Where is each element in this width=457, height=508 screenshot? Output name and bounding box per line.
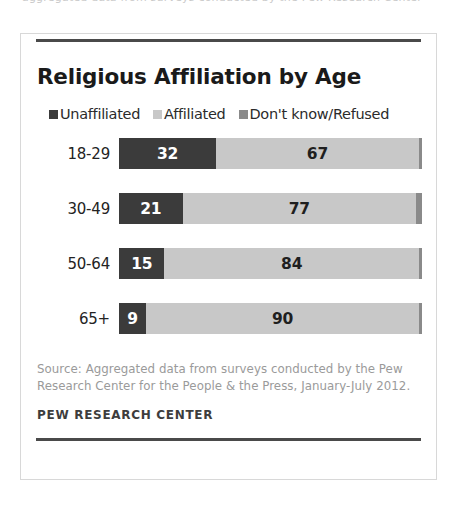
bar-segment-aff: 84: [164, 248, 419, 279]
bottom-rule-divider: [36, 438, 421, 441]
bar-category-label: 65+: [35, 310, 119, 328]
bar-segment-aff: 77: [183, 193, 416, 224]
bar-segment-dk: [419, 138, 422, 169]
bar-segment-aff: 67: [216, 138, 419, 169]
legend-swatch-unaffiliated: [49, 110, 58, 119]
bar-segment-unaff: 32: [119, 138, 216, 169]
bar-row: 65+990: [35, 303, 422, 334]
stacked-bar: 3267: [119, 138, 422, 169]
bar-segment-value: 32: [157, 145, 178, 163]
source-note: Source: Aggregated data from surveys con…: [37, 361, 422, 395]
chart-card: Religious Affiliation by Age Unaffiliate…: [20, 33, 437, 480]
bar-row: 18-293267: [35, 138, 422, 169]
bar-segment-value: 90: [272, 310, 293, 328]
stacked-bar: 990: [119, 303, 422, 334]
bar-segment-unaff: 21: [119, 193, 183, 224]
bar-segment-value: 84: [281, 255, 302, 273]
bar-segment-value: 15: [131, 255, 152, 273]
stacked-bar: 2177: [119, 193, 422, 224]
bar-segment-dk: [416, 193, 422, 224]
legend-item-unaffiliated[interactable]: Unaffiliated: [49, 106, 140, 122]
bar-chart-plot: 18-29326730-49217750-64158465+990: [35, 138, 422, 334]
bar-segment-unaff: 15: [119, 248, 164, 279]
clipped-text-artifact: aggregated data from surveys conducted b…: [22, 0, 432, 3]
bar-segment-value: 77: [289, 200, 310, 218]
bar-segment-aff: 90: [146, 303, 419, 334]
legend-item-affiliated[interactable]: Affiliated: [153, 106, 225, 122]
chart-legend: Unaffiliated Affiliated Don't know/Refus…: [49, 106, 422, 122]
bar-segment-unaff: 9: [119, 303, 146, 334]
top-rule-divider: [36, 39, 421, 42]
footer-spacer: [35, 422, 422, 438]
legend-label-unaffiliated: Unaffiliated: [60, 106, 140, 122]
bar-segment-value: 9: [127, 310, 138, 328]
bar-category-label: 50-64: [35, 255, 119, 273]
attribution-label: PEW RESEARCH CENTER: [37, 408, 422, 422]
legend-swatch-dont-know: [239, 110, 248, 119]
bar-category-label: 30-49: [35, 200, 119, 218]
bar-row: 50-641584: [35, 248, 422, 279]
legend-label-affiliated: Affiliated: [164, 106, 225, 122]
bar-segment-dk: [419, 303, 422, 334]
stacked-bar: 1584: [119, 248, 422, 279]
legend-label-dont-know: Don't know/Refused: [250, 106, 390, 122]
bar-segment-value: 67: [307, 145, 328, 163]
chart-title: Religious Affiliation by Age: [37, 64, 422, 89]
bar-category-label: 18-29: [35, 145, 119, 163]
legend-item-dont-know[interactable]: Don't know/Refused: [239, 106, 390, 122]
bar-segment-dk: [419, 248, 422, 279]
bar-segment-value: 21: [140, 200, 161, 218]
legend-swatch-affiliated: [153, 110, 162, 119]
bar-row: 30-492177: [35, 193, 422, 224]
